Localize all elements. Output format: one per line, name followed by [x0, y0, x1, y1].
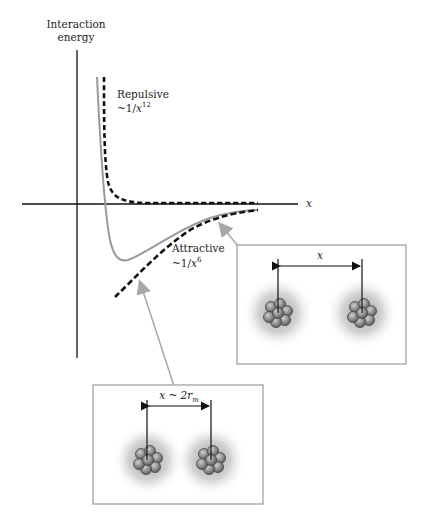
atom-icon [112, 424, 184, 496]
far-distance-label: x [317, 249, 323, 261]
inset-far-apart: x [237, 245, 406, 364]
y-axis-label-line1: Interaction [46, 18, 105, 30]
y-axis-label-line2: energy [58, 31, 95, 43]
repulsive-formula: ~1/x12 [117, 101, 151, 114]
attractive-label: Attractive [171, 242, 225, 254]
x-axis-label: x [306, 197, 312, 209]
inset-equilibrium: x ~ 2rm [93, 385, 263, 504]
lennard-jones-diagram: Interaction energy x Repulsive ~1/x12 At… [0, 0, 431, 523]
repulsive-label: Repulsive [117, 88, 169, 100]
attractive-formula: ~1/x6 [172, 256, 202, 269]
pointer-arrow-minimum [140, 282, 174, 386]
